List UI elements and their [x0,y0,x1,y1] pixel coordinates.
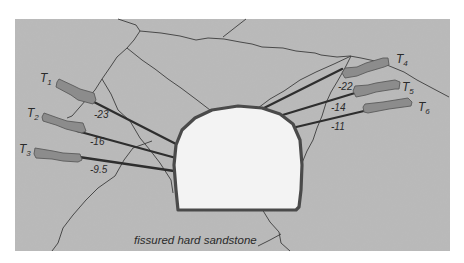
value-t1: -23 [94,109,109,120]
value-t2: -16 [90,136,105,147]
value-t6: -11 [331,121,345,132]
value-t3: -9.5 [90,164,108,175]
tunnel-anchor-diagram: T1 T2 T3 T4 T5 T6 -23 -16 -9.5 -22 -14 -… [0,0,464,263]
value-t5: -14 [331,102,346,113]
rock-caption: fissured hard sandstone [134,234,257,246]
value-t4: -22 [338,81,353,92]
tunnel-opening [174,106,302,210]
